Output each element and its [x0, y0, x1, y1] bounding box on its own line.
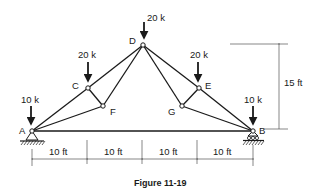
load-D: 20 k [144, 12, 165, 38]
member-EG [182, 88, 199, 106]
member-AF [32, 106, 103, 131]
joint-B [251, 129, 255, 133]
load-A: 10 k [21, 94, 39, 124]
load-B: 10 k [244, 94, 262, 124]
truss-diagram: A B C D E F G 10 k 20 k 20 k 20 k 10 k 1… [0, 0, 321, 193]
height-dimension: 15 ft [230, 44, 303, 129]
span-dimensions: 10 ft 10 ft 10 ft 10 ft [32, 140, 253, 166]
node-label-G: G [168, 106, 175, 117]
node-label-D: D [129, 35, 136, 46]
joint-D [141, 43, 145, 47]
node-label-F: F [110, 106, 116, 117]
span-label-1: 10 ft [49, 146, 68, 157]
load-label-B: 10 k [244, 94, 262, 105]
truss-members [32, 45, 253, 131]
member-FD [103, 45, 143, 106]
node-label-B: B [259, 125, 265, 136]
joint-C [86, 86, 90, 90]
member-GB [182, 106, 253, 131]
span-label-2: 10 ft [104, 146, 123, 157]
load-label-A: 10 k [21, 94, 39, 105]
joint-G [180, 104, 184, 108]
member-DG [143, 45, 182, 106]
member-CD [88, 45, 143, 88]
joint-F [101, 104, 105, 108]
load-label-C: 20 k [78, 49, 96, 60]
load-E: 20 k [190, 49, 208, 81]
span-label-3: 10 ft [159, 146, 178, 157]
member-AC [32, 88, 88, 131]
node-label-C: C [72, 80, 79, 91]
node-label-E: E [205, 80, 211, 91]
load-C: 20 k [78, 49, 96, 81]
member-CF [88, 88, 103, 106]
figure-caption: Figure 11-19 [134, 178, 187, 188]
height-label: 15 ft [284, 77, 303, 88]
joint-A [30, 129, 34, 133]
node-label-A: A [19, 125, 26, 136]
load-label-D: 20 k [147, 12, 165, 23]
span-label-4: 10 ft [213, 146, 232, 157]
load-label-E: 20 k [190, 49, 208, 60]
joint-E [197, 86, 201, 90]
